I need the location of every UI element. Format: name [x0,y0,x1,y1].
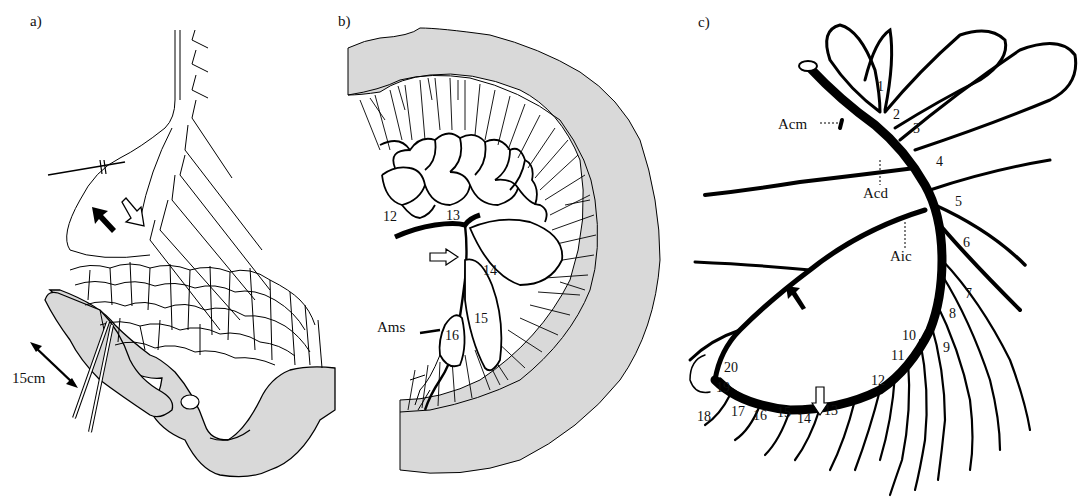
vessel-number-3: 3 [913,122,920,136]
mesentery-diagram-b [340,0,675,501]
vessel-number-11: 11 [891,349,904,363]
vessel-number-13: 13 [824,404,838,418]
vessel-number-17: 17 [731,405,745,419]
panel-b: b) [340,0,675,501]
vascular-tree-diagram-c [680,0,1089,501]
vessel-number-12: 12 [871,374,885,388]
vessel-number-12: 12 [383,210,397,224]
vessel-number-8: 8 [949,307,956,321]
vessel-number-13: 13 [446,209,460,223]
vessel-number-14: 14 [797,412,811,426]
vessel-number-16: 16 [753,409,767,423]
vessel-number-4: 4 [936,155,943,169]
ams-label: Ams [377,320,405,335]
acm-label: Acm [778,117,807,132]
vessel-number-18: 18 [697,410,711,424]
vessel-number-20: 20 [724,361,738,375]
panel-c: c) [680,0,1089,501]
vessel-number-15: 15 [777,406,791,420]
vessel-number-2: 2 [893,108,900,122]
mesentery-diagram-a [0,0,340,501]
vessel-number-15: 15 [474,312,488,326]
vessel-number-10: 10 [902,329,916,343]
vessel-number-14: 14 [483,264,497,278]
acd-label: Acd [863,186,888,201]
vessel-number-19: 19 [716,381,730,395]
vessel-number-1: 1 [877,80,884,94]
vessel-number-16: 16 [445,329,459,343]
panel-a: a) [0,0,340,501]
scale-label: 15cm [12,371,45,386]
aic-label: Aic [890,249,912,264]
vessel-number-6: 6 [963,236,970,250]
vessel-number-5: 5 [955,195,962,209]
vessel-number-7: 7 [965,287,972,301]
vessel-number-9: 9 [943,341,950,355]
